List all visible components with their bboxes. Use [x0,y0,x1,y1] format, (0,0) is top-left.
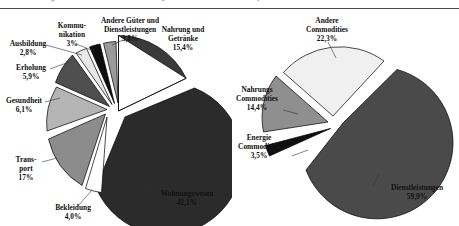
pie-label-erholung-value: 5,9% [23,72,40,81]
pie-chart-commodity-structure: Andere Commodities 22,3% Nahrungs Commod… [232,10,459,226]
pie-label-kommunikation-line2: nikation [59,30,85,39]
pie-label-ausbildung-line1: Ausbildung [10,39,47,48]
pie-label-gesundheit-value: 6,1% [16,105,33,114]
pie-label-andere-commodities-line2: Commodities [306,25,348,34]
pie-label-erholung-line1: Erholung [16,63,46,72]
pie-label-energie-commodities-value: 3,5% [251,151,268,160]
pie-label-energie-commodities-line2: Commodities [238,142,280,151]
pie-label-andere-gueter-value: 3,8% [122,34,139,43]
header-divider-rule [0,8,459,9]
pie-svg-right: Andere Commodities 22,3% Nahrungs Commod… [232,10,459,226]
pie-label-ausbildung-value: 2,8% [20,48,37,57]
pie-label-kommunikation-value: 3% [66,39,77,48]
pie-chart-consumption-structure: Nahrung und Getränke 15,4% Wohnungswesen… [0,10,232,226]
pie-label-nahrungs-commodities-line2: Commodities [236,94,278,103]
pie-label-andere-gueter-line1: Andere Güter und [101,16,160,25]
pie-label-kommunikation-line1: Kommu- [58,21,87,30]
pie-label-transport-line2: port [19,164,33,173]
pie-label-transport-value: 17% [19,173,34,182]
pie-label-andere-gueter-line2: Dienstleistungen [104,25,156,34]
pie-label-nahrung-line2: Getränke [168,34,199,43]
pie-label-bekleidung-value: 4,0% [65,212,82,221]
pie-label-bekleidung-line1: Bekleidung [55,203,91,212]
pie-label-nahrung-line1: Nahrung und [162,25,205,34]
pie-label-dienstleistungen-value: 59,9% [407,192,427,201]
pie-label-andere-commodities-line1: Andere [315,16,339,25]
leader-transport [42,158,57,162]
pie-label-nahrungs-commodities-value: 14,4% [247,103,267,112]
leader-energie-commodities [292,150,308,156]
header-fragment-2: o [161,0,165,2]
pie-slice-wohnungswesen[interactable] [96,88,232,226]
pie-label-nahrung-value: 15,4% [173,43,193,52]
pie-label-andere-commodities-value: 22,3% [317,34,337,43]
pie-label-wohnungswesen-line1: Wohnungswesen [161,189,214,198]
pie-label-energie-commodities-line1: Energie [247,133,272,142]
pie-label-gesundheit-line1: Gesundheit [6,96,43,105]
pie-label-transport-line1: Trans- [16,155,37,164]
header-fragment-3: t [257,0,259,2]
pie-label-dienstleistungen-line1: Dienstleistungen [391,183,443,192]
header-fragment-1: p [51,0,55,2]
pie-label-nahrungs-commodities-line1: Nahrungs [241,85,272,94]
clipped-page-header: p o t [0,0,459,2]
pie-svg-left: Nahrung und Getränke 15,4% Wohnungswesen… [0,10,232,226]
pie-label-wohnungswesen-value: 42,1% [177,198,197,207]
